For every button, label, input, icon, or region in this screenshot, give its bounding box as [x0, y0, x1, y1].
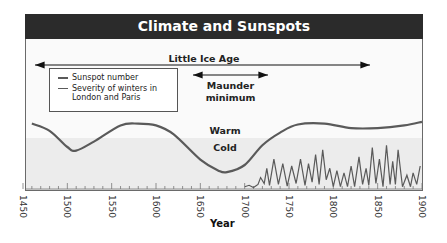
x-tick-label: 1800: [328, 195, 338, 218]
legend-label-winters: Severity of winters in London and Paris: [72, 84, 173, 103]
legend-label-sunspot: Sunspot number: [72, 73, 138, 83]
x-tick-label: 1450: [18, 195, 28, 218]
x-tick-label: 1900: [417, 195, 427, 218]
legend-swatch-sunspot: [58, 77, 68, 79]
x-axis-label: Year: [210, 218, 235, 229]
x-tick-label: 1700: [240, 195, 250, 218]
x-tick-label: 1550: [107, 195, 117, 218]
cold-label: Cold: [205, 142, 245, 153]
legend-item-winters: Severity of winters in London and Paris: [58, 84, 173, 103]
maunder-minimum-label: Maunder minimum: [188, 80, 273, 104]
legend-item-sunspot: Sunspot number: [58, 73, 173, 83]
little-ice-age-label: Little Ice Age: [154, 53, 254, 64]
x-tick-label: 1600: [151, 195, 161, 218]
x-tick-label: 1750: [284, 195, 294, 218]
x-tick-label: 1650: [195, 195, 205, 218]
legend: Sunspot number Severity of winters in Lo…: [49, 68, 178, 112]
x-tick-label: 1850: [373, 195, 383, 218]
warm-label: Warm: [205, 125, 245, 136]
legend-swatch-winters: [58, 88, 68, 90]
x-tick-label: 1500: [62, 195, 72, 218]
